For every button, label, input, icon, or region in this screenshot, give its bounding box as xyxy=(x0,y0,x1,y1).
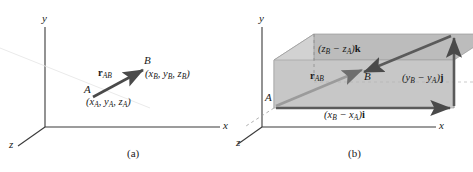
point-label-a-panel-a: A xyxy=(84,84,91,95)
coords-point-b-panel-a: (xB, yB, zB) xyxy=(145,69,190,80)
coord-a-close: ) xyxy=(127,96,131,107)
comp-j-minus: − xyxy=(415,72,427,83)
comp-j-unit: j xyxy=(440,72,444,83)
coord-b-close: ) xyxy=(186,68,190,79)
panel-a-graphics xyxy=(0,0,236,172)
component-label-k: (zB − zA)k xyxy=(318,44,361,55)
panel-b: y x z A B rAB (zB − zA)k (yB − yA)j (xB … xyxy=(236,0,472,172)
axis-label-y-b: y xyxy=(259,13,264,24)
coords-point-a-panel-a: (xA, yA, zA) xyxy=(86,97,131,108)
figure-position-vector: y x z A B rAB (xA, yA, zA) (xB, yB, zB) … xyxy=(0,0,473,172)
vector-subscript-ab-a: AB xyxy=(103,71,112,80)
axis-z-line-a xyxy=(18,127,45,146)
panel-a: y x z A B rAB (xA, yA, zA) (xB, yB, zB) … xyxy=(0,0,236,172)
caption-b: (b) xyxy=(348,148,361,159)
component-label-j: (yB − yA)j xyxy=(402,73,443,84)
axis-label-y-a: y xyxy=(42,13,47,24)
comp-i-minus: − xyxy=(337,109,349,120)
point-label-b-panel-a: B xyxy=(144,55,151,66)
caption-a: (a) xyxy=(127,148,139,159)
projection-dashed-a xyxy=(246,108,274,126)
axis-label-z-a: z xyxy=(9,139,13,150)
comp-k-unit: k xyxy=(355,43,361,54)
component-label-i: (xB − xA)i xyxy=(324,110,365,121)
comp-i-unit: i xyxy=(362,109,365,120)
axis-label-x-a: x xyxy=(223,120,228,131)
vector-label-rab-b: rAB xyxy=(310,71,324,82)
axis-label-z-b: z xyxy=(236,137,240,148)
axis-z-line-b xyxy=(238,127,262,144)
point-label-a-panel-b: A xyxy=(265,92,272,103)
comp-k-minus: − xyxy=(330,43,342,54)
vector-label-rab-a: rAB xyxy=(98,68,112,79)
point-label-b-panel-b: B xyxy=(364,71,371,82)
vector-subscript-ab-b: AB xyxy=(315,74,324,83)
axis-label-x-b: x xyxy=(439,120,444,131)
